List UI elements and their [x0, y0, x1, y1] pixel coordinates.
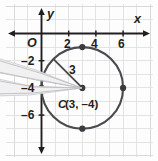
y-tick-label-minus6: –6: [21, 108, 35, 122]
coordinate-plane-svg: x y O 2 4 6 –2 –4 –6 3 C (3, –4): [0, 0, 158, 161]
point-right: [120, 85, 126, 91]
x-tick-label-4: 4: [91, 37, 98, 51]
point-bottom: [79, 126, 85, 132]
center-label-coords: (3, –4): [65, 98, 98, 110]
y-tick-label-minus4: –4: [21, 81, 35, 95]
coordinate-plane-figure: x y O 2 4 6 –2 –4 –6 3 C (3, –4): [0, 0, 158, 161]
y-tick-label-minus2: –2: [21, 54, 35, 68]
x-axis-label: x: [133, 12, 142, 26]
x-tick-label-2: 2: [64, 37, 71, 51]
point-top: [79, 44, 85, 50]
x-tick-label-6: 6: [118, 37, 125, 51]
radius-label: 3: [69, 63, 76, 77]
y-axis-label: y: [46, 7, 55, 21]
origin-label: O: [27, 36, 37, 50]
